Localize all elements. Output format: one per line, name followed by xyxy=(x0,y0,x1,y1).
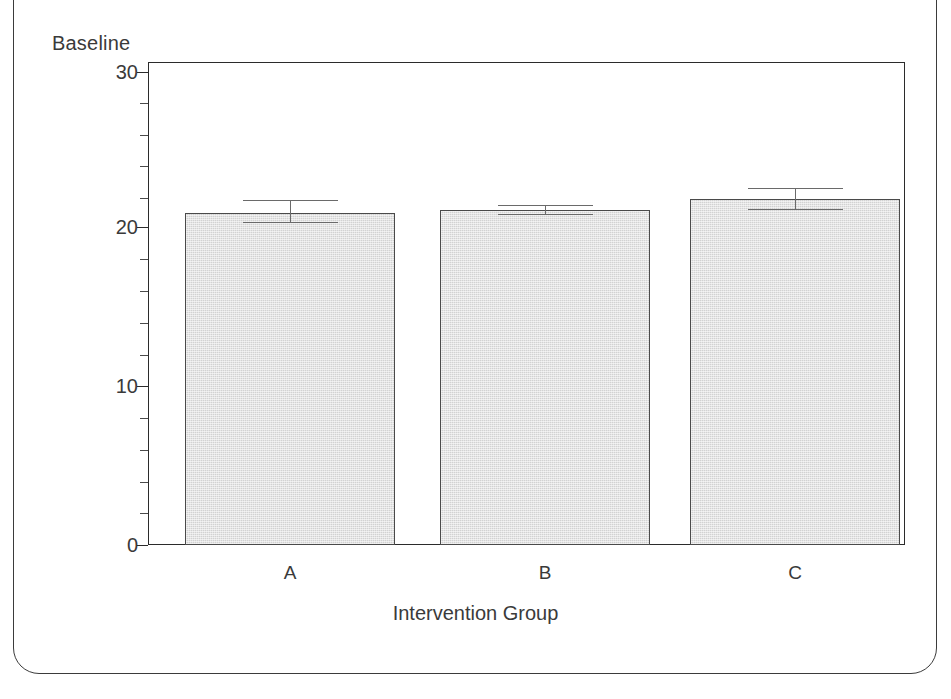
y-tick-major-10 xyxy=(137,386,148,387)
x-tick-label-b: B xyxy=(539,562,552,584)
error-bar-cap-upper-c xyxy=(748,188,843,189)
error-bar-cap-lower-c xyxy=(748,209,843,210)
error-bar-cap-lower-a xyxy=(243,222,338,223)
y-tick-label-group: 30 20 10 0 xyxy=(60,0,138,699)
y-tick-minor-2 xyxy=(140,513,148,514)
bar-b xyxy=(440,210,650,545)
y-tick-minor-6 xyxy=(140,450,148,451)
error-bar-stem-a xyxy=(290,200,291,222)
y-tick-major-30 xyxy=(137,72,148,73)
y-tick-label-20: 20 xyxy=(116,216,138,239)
y-tick-label-30: 30 xyxy=(116,61,138,84)
error-bar-cap-lower-b xyxy=(498,214,593,215)
y-tick-major-20 xyxy=(137,227,148,228)
y-tick-minor-24 xyxy=(140,166,148,167)
error-bar-cap-upper-a xyxy=(243,200,338,201)
error-bar-stem-b xyxy=(545,205,546,214)
y-tick-minor-18 xyxy=(140,259,148,260)
y-tick-label-10: 10 xyxy=(116,375,138,398)
chart-screenshot: Baseline 30 20 10 0 A B C Intervention G… xyxy=(0,0,951,699)
bar-a xyxy=(185,213,395,545)
y-tick-minor-26 xyxy=(140,135,148,136)
y-tick-minor-28 xyxy=(140,103,148,104)
y-tick-minor-16 xyxy=(140,291,148,292)
x-axis-title: Intervention Group xyxy=(0,602,951,625)
y-tick-minor-22 xyxy=(140,198,148,199)
error-bar-stem-c xyxy=(795,188,796,209)
y-tick-minor-12 xyxy=(140,355,148,356)
y-tick-minor-8 xyxy=(140,418,148,419)
y-tick-major-0 xyxy=(137,545,148,546)
bar-c xyxy=(690,199,900,545)
y-tick-minor-4 xyxy=(140,482,148,483)
error-bar-cap-upper-b xyxy=(498,205,593,206)
x-tick-label-a: A xyxy=(284,562,297,584)
x-tick-label-c: C xyxy=(788,562,802,584)
y-tick-minor-14 xyxy=(140,323,148,324)
